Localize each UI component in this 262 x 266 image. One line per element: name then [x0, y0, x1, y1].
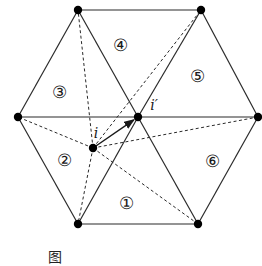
- mesh-edge: [78, 10, 138, 117]
- dashed-edge: [78, 10, 93, 148]
- region-label-5: ⑤: [190, 66, 205, 86]
- dashed-edge: [93, 117, 258, 148]
- node-right: [254, 113, 262, 121]
- figure-caption: 图: [0, 246, 262, 266]
- node-i: [89, 144, 97, 152]
- dashed-edge: [93, 148, 198, 224]
- region-label-4: ④: [113, 35, 128, 55]
- mesh-edge: [138, 10, 201, 117]
- region-labels: ①②③④⑤⑥: [52, 35, 220, 213]
- mesh-edge: [18, 117, 78, 224]
- arrow-i-to-i-prime: [93, 120, 134, 148]
- dashed-edge: [93, 10, 201, 148]
- region-label-6: ⑥: [205, 151, 220, 171]
- region-label-3: ③: [52, 82, 67, 102]
- mesh-edge: [18, 10, 78, 117]
- label-i-prime: i′: [150, 97, 158, 113]
- caption-figure-label: 图: [48, 246, 62, 266]
- displacement-arrow: [93, 120, 134, 148]
- region-label-2: ②: [57, 150, 72, 170]
- dashed-edge: [78, 148, 93, 224]
- node-top-right: [197, 6, 205, 14]
- node-center: [134, 113, 142, 121]
- mesh-edge: [138, 117, 198, 224]
- region-label-1: ①: [119, 193, 134, 213]
- dashed-edge: [18, 117, 93, 148]
- mesh-edge: [201, 10, 258, 117]
- node-bottom-right: [194, 220, 202, 228]
- node-left: [14, 113, 22, 121]
- node-bottom-left: [74, 220, 82, 228]
- node-top-left: [74, 6, 82, 14]
- label-i: i: [94, 125, 98, 141]
